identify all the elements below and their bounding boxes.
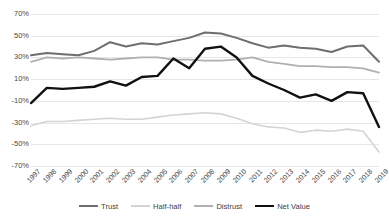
- legend-swatch-icon: [255, 205, 274, 207]
- legend-label: Trust: [101, 202, 118, 211]
- line-chart: 70%50%30%10%-10%-30%-50%-70% 19971998199…: [0, 0, 389, 218]
- plot-area: [31, 14, 379, 166]
- y-axis-tick-label: 10%: [3, 75, 29, 83]
- y-axis-tick-label: -30%: [3, 119, 29, 127]
- legend-item-trust[interactable]: Trust: [79, 202, 118, 211]
- y-axis-tick-label: -10%: [3, 97, 29, 105]
- series-line-distrust: [31, 57, 379, 72]
- legend-label: Net Value: [277, 202, 310, 211]
- legend-swatch-icon: [194, 205, 213, 207]
- y-axis-tick-label: 50%: [3, 32, 29, 40]
- legend-swatch-icon: [131, 205, 150, 207]
- legend-swatch-icon: [79, 205, 98, 207]
- series-lines: [31, 14, 379, 166]
- legend-item-net-value[interactable]: Net Value: [255, 202, 310, 211]
- x-axis-tick-labels: 1997199819992000200120022003200420052006…: [31, 167, 379, 197]
- legend-label: Half-half: [153, 202, 181, 211]
- y-axis-tick-label: -70%: [3, 162, 29, 170]
- y-axis-tick-label: 30%: [3, 53, 29, 61]
- legend-item-distrust[interactable]: Distrust: [194, 202, 242, 211]
- legend-label: Distrust: [216, 202, 242, 211]
- chart-title: [48, 0, 348, 5]
- legend-item-half-half[interactable]: Half-half: [131, 202, 181, 211]
- chart-legend: TrustHalf-halfDistrustNet Value: [0, 199, 389, 213]
- y-axis-tick-label: -50%: [3, 140, 29, 148]
- y-axis-tick-label: 70%: [3, 10, 29, 18]
- series-line-half-half: [31, 113, 379, 152]
